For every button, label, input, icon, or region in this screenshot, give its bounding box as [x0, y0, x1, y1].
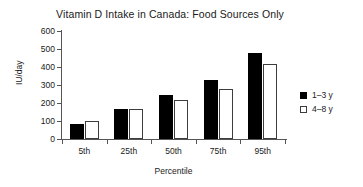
chart-figure: Vitamin D Intake in Canada: Food Sources…	[0, 0, 363, 187]
bar-95th-series-1	[248, 53, 262, 139]
y-axis-tick-label: 200	[41, 99, 55, 108]
y-axis-tick-label: 300	[41, 81, 55, 90]
y-axis-tick	[57, 49, 61, 50]
bar-5th-series-2	[85, 121, 99, 139]
y-axis-tick-label: 400	[41, 63, 55, 72]
legend-label: 1–3 y	[312, 91, 333, 100]
x-axis-tick	[285, 140, 286, 144]
bar-75th-series-2	[219, 89, 233, 139]
y-axis-tick	[57, 85, 61, 86]
bar-95th-series-2	[263, 64, 277, 139]
x-axis-tick-label: 95th	[254, 147, 271, 156]
y-axis-title: IU/day	[14, 60, 24, 85]
x-axis-tick-label: 75th	[210, 147, 227, 156]
x-axis-tick-label: 50th	[165, 147, 182, 156]
bar-50th-series-1	[159, 95, 173, 139]
x-axis-line	[61, 139, 287, 140]
legend-item: 1–3 y	[300, 88, 333, 102]
plot-area: 01002003004005006005th25th50th75th95th	[62, 31, 285, 139]
x-axis-tick-label: 5th	[78, 147, 90, 156]
y-axis-tick-label: 0	[50, 135, 55, 144]
y-axis-tick	[57, 121, 61, 122]
y-axis-tick-label: 600	[41, 27, 55, 36]
bar-50th-series-2	[174, 100, 188, 139]
y-axis-tick	[57, 31, 61, 32]
y-axis-tick	[57, 67, 61, 68]
y-axis-tick-label: 500	[41, 45, 55, 54]
y-axis-tick-label: 100	[41, 117, 55, 126]
legend-swatch-icon	[300, 92, 307, 99]
legend-label: 4–8 y	[312, 105, 333, 114]
x-axis-title: Percentile	[62, 166, 285, 176]
chart-legend: 1–3 y4–8 y	[300, 88, 333, 116]
bar-25th-series-1	[114, 109, 128, 139]
chart-title: Vitamin D Intake in Canada: Food Sources…	[0, 8, 340, 20]
bar-5th-series-1	[70, 124, 84, 139]
bar-75th-series-1	[204, 80, 218, 139]
y-axis-tick	[57, 103, 61, 104]
x-axis-tick	[151, 140, 152, 144]
y-axis-tick	[57, 139, 61, 140]
x-axis-tick	[62, 140, 63, 144]
x-axis-tick	[196, 140, 197, 144]
legend-swatch-icon	[300, 106, 307, 113]
legend-item: 4–8 y	[300, 102, 333, 116]
x-axis-tick	[240, 140, 241, 144]
x-axis-tick	[107, 140, 108, 144]
x-axis-tick-label: 25th	[121, 147, 138, 156]
bar-25th-series-2	[129, 109, 143, 139]
